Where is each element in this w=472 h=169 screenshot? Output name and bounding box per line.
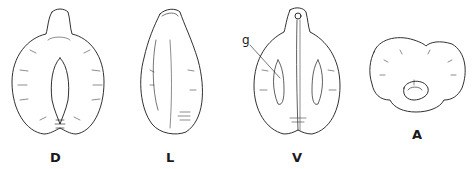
view-label-apical: A bbox=[412, 128, 422, 141]
view-label-lateral: L bbox=[166, 151, 174, 164]
dorsal-view-drawing bbox=[12, 9, 104, 134]
annotation-label-g: g bbox=[242, 34, 250, 46]
seed-drawings bbox=[0, 0, 472, 169]
view-label-dorsal: D bbox=[50, 151, 61, 164]
view-label-ventral: V bbox=[292, 151, 302, 164]
ventral-view-drawing bbox=[250, 8, 340, 134]
lateral-view-drawing bbox=[141, 9, 203, 134]
apical-view-drawing bbox=[370, 38, 465, 112]
annotation-leader-line bbox=[250, 45, 280, 78]
